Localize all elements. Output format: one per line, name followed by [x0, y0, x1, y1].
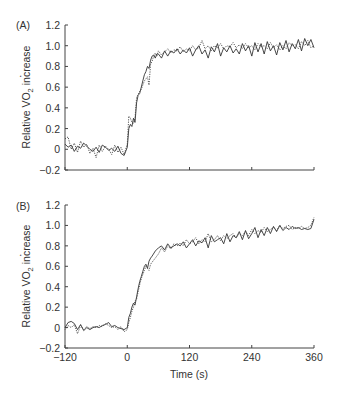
y-tick-label: 0 [54, 322, 60, 334]
vo2-chart: (A) −0.200.20.40.60.81.01.2 Relative VO2… [0, 0, 342, 397]
y-tick-label: 0.2 [45, 301, 60, 313]
x-tick-label: 120 [181, 351, 199, 363]
x-tick-label: −120 [53, 351, 77, 363]
panel-b-label: (B) [16, 200, 30, 212]
panel-b-x-axis: −1200120240360 [53, 345, 323, 363]
y-tick-label: 0.4 [45, 102, 60, 114]
y-tick-label: 0.8 [45, 60, 60, 72]
y-tick-label: 0 [54, 143, 60, 155]
panel-b-y-axis-title: Relative VO2 increase [20, 224, 35, 327]
series-solid-line [65, 39, 314, 156]
x-axis-title: Time (s) [170, 368, 208, 380]
series-dotted-line [65, 41, 314, 158]
panel-b-y-axis: −0.200.20.40.60.81.01.2 [39, 199, 68, 354]
panel-a-label: (A) [16, 19, 30, 31]
y-tick-label: 0.8 [45, 240, 60, 252]
panel-b: (B) −0.200.20.40.60.81.01.2 −12001202403… [14, 199, 323, 380]
panel-a-y-axis: −0.200.20.40.60.81.01.2 [39, 19, 68, 176]
y-tick-label: 1.2 [45, 19, 60, 31]
y-tick-label: 1.0 [45, 40, 60, 52]
panel-a-vdot: · [14, 75, 26, 79]
y-tick-label: 0.2 [45, 123, 60, 135]
panel-b-series [65, 217, 314, 333]
panel-a-y-axis-title: Relative VO2 increase [20, 45, 35, 148]
y-tick-label: 0.6 [45, 260, 60, 272]
y-tick-label: 1.2 [45, 199, 60, 211]
x-tick-label: 360 [305, 351, 323, 363]
panel-a: (A) −0.200.20.40.60.81.01.2 Relative VO2… [14, 19, 314, 176]
series-solid-line [65, 219, 314, 330]
panel-a-series [65, 39, 314, 158]
y-tick-label: 0.4 [45, 281, 60, 293]
x-tick-label: 240 [243, 351, 261, 363]
y-tick-label: 1.0 [45, 219, 60, 231]
y-tick-label: 0.6 [45, 81, 60, 93]
panel-a-x-axis [65, 167, 314, 170]
panel-b-vdot: · [14, 254, 26, 258]
series-dotted-line [65, 217, 314, 333]
x-tick-label: 0 [124, 351, 130, 363]
y-tick-label: −0.2 [39, 164, 60, 176]
